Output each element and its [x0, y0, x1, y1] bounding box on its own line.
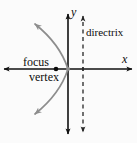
parabola-figure: focus vertex directrix y x: [0, 0, 137, 143]
vertex-point-marker: [66, 67, 70, 71]
x-axis-label: x: [122, 53, 127, 65]
parabola-diagram-canvas: [0, 0, 137, 143]
y-axis-label: y: [71, 6, 76, 18]
directrix-label: directrix: [86, 27, 123, 38]
vertex-label: vertex: [29, 71, 59, 83]
focus-label: focus: [23, 56, 49, 68]
